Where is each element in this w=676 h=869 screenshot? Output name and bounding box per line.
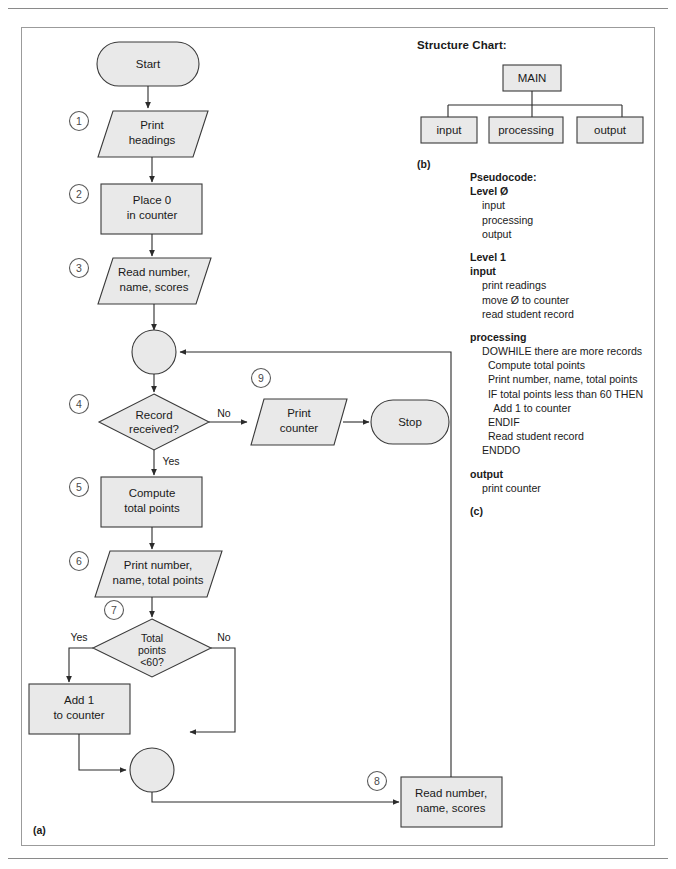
pseudocode-line: output [470,227,660,241]
sc-connector-lines [448,91,622,117]
pseudocode-title: Pseudocode: [470,170,660,184]
pseudocode-subheading-processing: processing [470,330,660,344]
structure-chart-title: Structure Chart: [417,38,653,53]
pseudocode-line: Add 1 to counter [470,401,660,415]
pseudocode-spacer [470,495,660,504]
pseudocode-line: DOWHILE there are more records [470,344,660,358]
pseudocode-subheading-output: output [470,467,660,481]
sc-node-processing-label: processing [498,124,554,136]
page-rule-top [8,8,668,9]
sc-node-output-label: output [594,124,627,136]
pseudocode-line: print counter [470,481,660,495]
pseudocode-line: move Ø to counter [470,293,660,307]
pseudocode-spacer [470,321,660,330]
figure-caption-a: (a) [33,824,46,836]
sc-node-input-label: input [437,124,463,136]
page-rule-bottom [8,858,668,859]
figure-caption-c: (c) [470,504,660,518]
pseudocode-spacer [470,458,660,467]
pseudocode-heading-level1: Level 1 [470,250,660,264]
structure-chart-svg: MAIN input processing output [417,61,653,153]
pseudocode-panel: Pseudocode: Level Ø input processing out… [470,170,660,518]
pseudocode-line: read student record [470,307,660,321]
pseudocode-line: processing [470,213,660,227]
structure-chart-panel: Structure Chart: MAIN input processing o… [417,38,653,171]
pseudocode-line: input [470,198,660,212]
sc-node-main-label: MAIN [518,72,547,84]
pseudocode-line: Read student record [470,429,660,443]
pseudocode-line: ENDIF [470,415,660,429]
pseudocode-heading-level0: Level Ø [470,184,660,198]
pseudocode-line: print readings [470,278,660,292]
pseudocode-line: Compute total points [470,358,660,372]
pseudocode-line: IF total points less than 60 THEN [470,387,660,401]
pseudocode-subheading-input: input [470,264,660,278]
pseudocode-spacer [470,241,660,250]
pseudocode-line: ENDDO [470,443,660,457]
pseudocode-line: Print number, name, total points [470,372,660,386]
